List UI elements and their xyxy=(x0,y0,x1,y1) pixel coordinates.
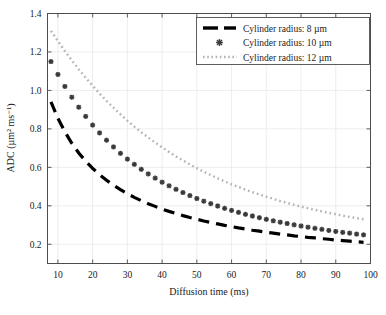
data-marker xyxy=(264,217,269,222)
x-tick-label: 60 xyxy=(227,270,237,280)
data-marker xyxy=(299,224,304,229)
data-marker xyxy=(167,183,172,188)
x-tick-label: 90 xyxy=(331,270,341,280)
legend-label-1: Cylinder radius: 8 µm xyxy=(243,24,327,34)
asterisk-swatch-icon xyxy=(216,39,223,46)
data-marker xyxy=(132,162,137,167)
data-marker xyxy=(104,138,109,143)
x-axis-label: Diffusion time (ms) xyxy=(169,286,248,298)
y-tick-label: 1.4 xyxy=(30,9,42,19)
data-marker xyxy=(326,228,331,233)
legend-label-2: Cylinder radius: 10 µm xyxy=(243,38,332,48)
data-marker xyxy=(69,95,74,100)
data-marker xyxy=(146,171,151,176)
data-marker xyxy=(257,215,262,220)
y-tick-label: 0.2 xyxy=(30,240,42,250)
data-marker xyxy=(174,187,179,192)
data-marker xyxy=(312,226,317,231)
data-marker xyxy=(271,218,276,223)
data-marker xyxy=(194,196,199,201)
data-marker xyxy=(285,221,290,226)
x-tick-label: 40 xyxy=(157,270,167,280)
data-marker xyxy=(319,227,324,232)
data-marker xyxy=(118,151,123,156)
data-marker xyxy=(201,199,206,204)
chart-legend: Cylinder radius: 8 µm Cylinder radius: 1… xyxy=(197,18,370,65)
y-tick-label: 0.6 xyxy=(30,163,42,173)
data-marker xyxy=(97,130,102,135)
x-tick-label: 30 xyxy=(123,270,133,280)
chart-figure: 102030405060708090100 0.20.40.60.81.01.2… xyxy=(0,0,386,315)
y-tick-label: 0.4 xyxy=(30,201,42,211)
data-marker xyxy=(243,212,248,217)
x-tick-label: 80 xyxy=(296,270,306,280)
y-tick-label: 0.8 xyxy=(30,124,42,134)
data-marker xyxy=(55,72,60,77)
data-marker xyxy=(187,193,192,198)
x-tick-label: 10 xyxy=(53,270,63,280)
data-marker xyxy=(354,232,359,237)
data-marker xyxy=(278,220,283,225)
data-marker xyxy=(250,214,255,219)
data-marker xyxy=(340,230,345,235)
x-tick-label: 20 xyxy=(88,270,98,280)
data-marker xyxy=(90,123,95,128)
data-marker xyxy=(125,157,130,162)
data-marker xyxy=(48,59,53,64)
data-marker xyxy=(111,144,116,149)
y-tick-label: 1.0 xyxy=(30,86,42,96)
x-tick-label: 50 xyxy=(192,270,202,280)
data-marker xyxy=(62,84,67,89)
data-marker xyxy=(160,180,165,185)
data-marker xyxy=(305,225,310,230)
legend-label-3: Cylinder radius: 12 µm xyxy=(243,53,332,63)
data-marker xyxy=(76,105,81,110)
data-marker xyxy=(208,201,213,206)
data-marker xyxy=(215,204,220,209)
data-marker xyxy=(222,206,227,211)
x-tick-label: 100 xyxy=(363,270,378,280)
data-marker xyxy=(83,114,88,119)
data-marker xyxy=(236,210,241,215)
adc-vs-diffusion-time-chart: 102030405060708090100 0.20.40.60.81.01.2… xyxy=(0,0,386,315)
data-marker xyxy=(347,231,352,236)
data-marker xyxy=(292,222,297,227)
data-marker xyxy=(180,190,185,195)
y-axis-label: ADC (µm² ms⁻¹) xyxy=(5,104,17,173)
x-tick-label: 70 xyxy=(262,270,272,280)
data-marker xyxy=(361,232,366,237)
y-tick-label: 1.2 xyxy=(30,47,42,57)
data-marker xyxy=(229,208,234,213)
data-marker xyxy=(139,167,144,172)
data-marker xyxy=(153,176,158,181)
data-marker xyxy=(333,229,338,234)
